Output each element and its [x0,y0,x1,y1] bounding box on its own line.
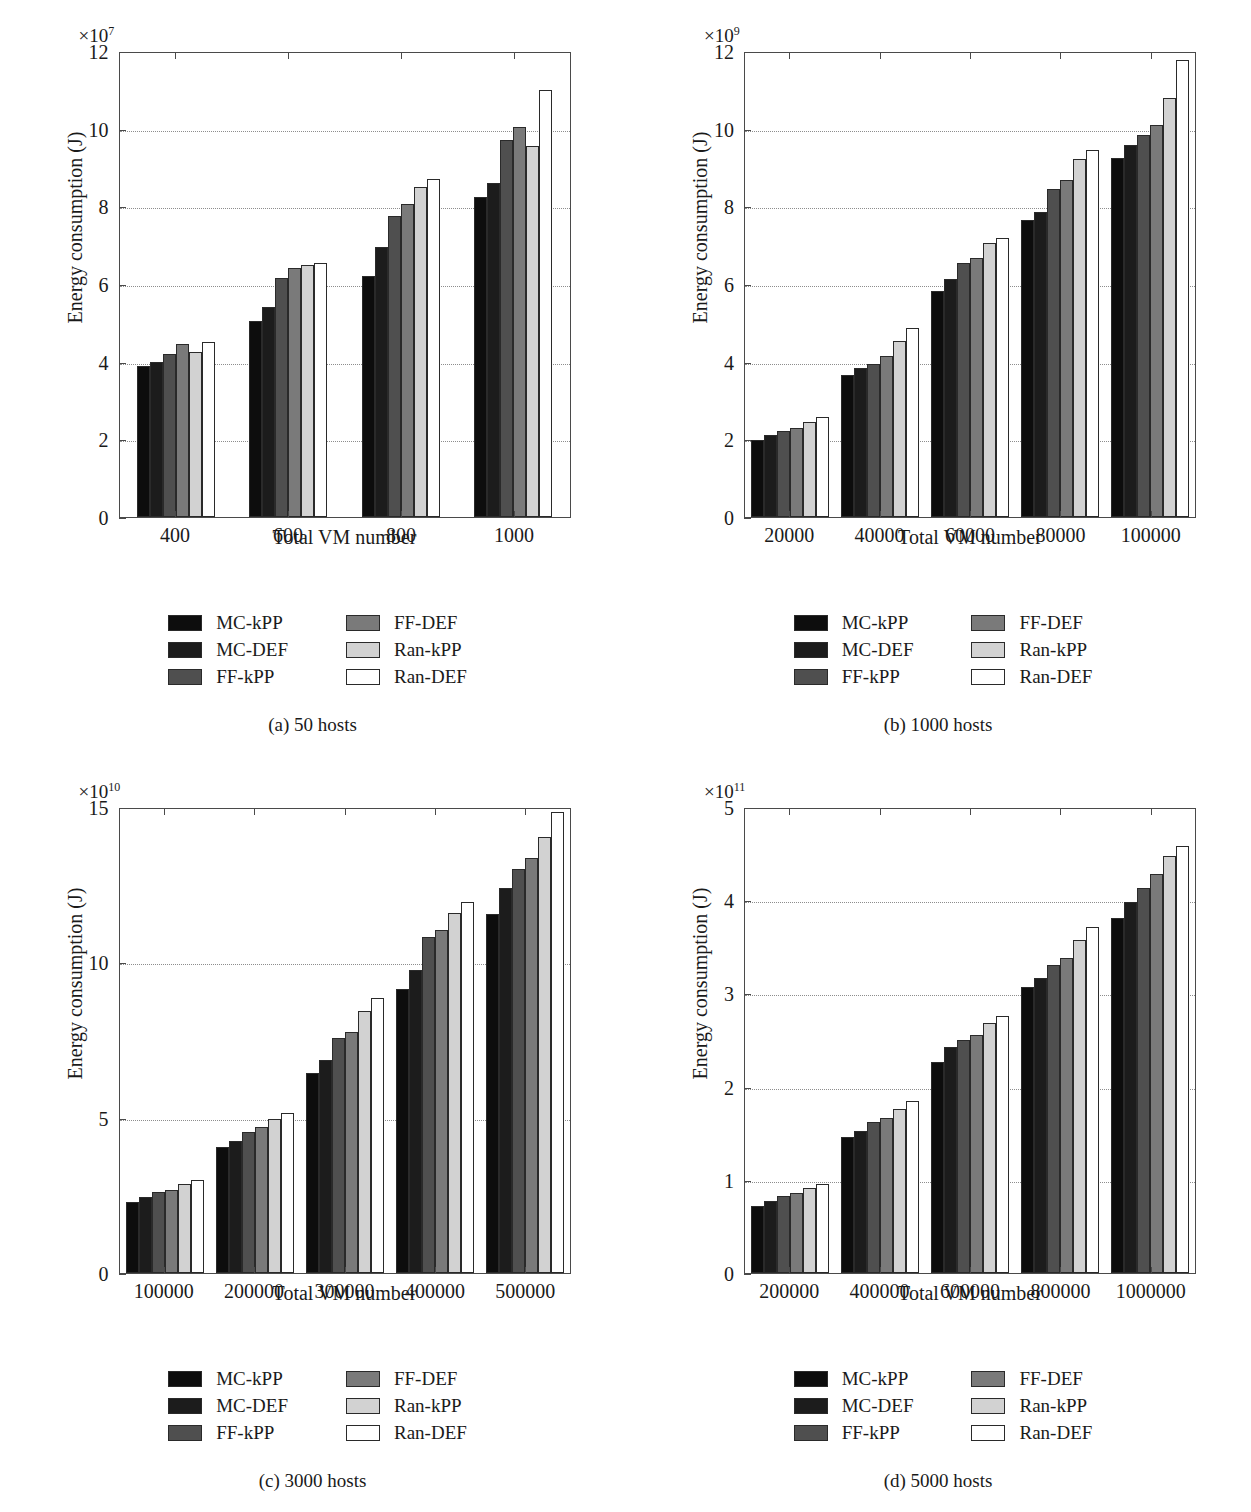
bar [816,417,829,517]
legend-label: MC-kPP [842,612,909,634]
x-tick-mark-top [1151,52,1152,59]
bar [165,1190,178,1273]
legend-swatch [971,642,1005,658]
plot-wrapper: 02468101220000400006000080000100000 [744,52,1196,518]
legend-label: MC-kPP [842,1368,909,1390]
x-tick-mark [880,511,881,518]
x-tick-mark-top [164,808,165,815]
bar [551,812,564,1273]
bar-groups [120,53,570,517]
y-tick-mark [119,285,126,286]
bar [332,1038,345,1273]
y-tick-label: 2 [49,429,109,452]
subfigure-caption-b: (b) 1000 hosts [884,714,993,736]
legend-swatch [346,669,380,685]
plot-wrapper: 051015100000200000300000400000500000 [119,808,571,1274]
x-tick-mark-top [525,808,526,815]
legend-swatch [794,669,828,685]
plot-wrapper: 0246810124006008001000 [119,52,571,518]
legend-label: FF-DEF [1019,1368,1082,1390]
bar [751,440,764,517]
x-tick-mark-top [401,52,402,59]
bar [345,1032,358,1273]
x-tick-mark-top [1060,52,1061,59]
bar [944,279,957,517]
y-tick-mark [119,207,126,208]
legend-item: Ran-kPP [346,1395,467,1417]
bar [435,930,448,1273]
bar [931,291,944,517]
legend-label: MC-DEF [842,639,914,661]
legend: MC-kPPFF-DEFMC-DEFRan-kPPFF-kPPRan-DEF [168,612,467,688]
x-tick-mark-top [970,52,971,59]
y-tick-label: 0 [674,507,734,530]
bar [500,140,513,517]
bar [983,1023,996,1273]
legend-label: Ran-kPP [394,1395,462,1417]
bar [1111,918,1124,1273]
legend-swatch [168,1425,202,1441]
y-tick-mark [744,130,751,131]
bar [1163,98,1176,517]
legend-swatch [168,615,202,631]
y-tick-mark [744,363,751,364]
bar-group [390,809,480,1273]
legend-label: Ran-DEF [1019,666,1092,688]
bar [461,902,474,1273]
x-tick-mark-top [789,52,790,59]
y-tick-label: 5 [49,1107,109,1130]
legend-swatch [794,615,828,631]
legend-label: FF-kPP [842,666,900,688]
x-tick-mark [1151,511,1152,518]
x-tick-mark [514,511,515,518]
bar [777,1196,790,1273]
x-axis-label: Total VM number [119,526,571,549]
legend-label: Ran-DEF [394,1422,467,1444]
bar [1073,159,1086,517]
y-tick-mark [744,207,751,208]
legend-swatch [794,1425,828,1441]
bar [275,278,288,517]
x-tick-mark [970,511,971,518]
y-tick-label: 5 [674,797,734,820]
bar [893,341,906,517]
y-axis-exponent-power: 11 [734,780,746,794]
y-axis-exponent-power: 10 [108,780,120,794]
y-tick-mark [744,1181,751,1182]
bar [906,1101,919,1273]
y-axis-exponent-power: 9 [734,24,740,38]
bar [255,1127,268,1273]
bar [1124,145,1137,517]
bar-group [345,53,458,517]
bar-group [835,809,925,1273]
bar [189,352,202,517]
legend-swatch [346,615,380,631]
x-tick-mark-top [1060,808,1061,815]
bar [1021,987,1034,1273]
bar [867,1122,880,1273]
legend-item: MC-kPP [168,612,288,634]
bar-group [1105,809,1195,1273]
y-tick-mark [119,130,126,131]
legend-item: MC-DEF [794,1395,914,1417]
bar-group [1105,53,1195,517]
legend-item: FF-kPP [794,666,914,688]
bar [1073,940,1086,1273]
legend-label: Ran-kPP [1019,639,1087,661]
bar-group [1015,809,1105,1273]
bar-groups [745,53,1195,517]
bar [388,216,401,517]
y-tick-label: 0 [674,1263,734,1286]
x-axis-label: Total VM number [744,526,1196,549]
bar-groups [745,809,1195,1273]
x-tick-mark [254,1267,255,1274]
bar [526,146,539,517]
bar [816,1184,829,1273]
bar [803,1188,816,1273]
bar [362,276,375,517]
x-tick-mark [175,511,176,518]
x-tick-mark [525,1267,526,1274]
bar [512,869,525,1273]
legend-item: MC-DEF [168,1395,288,1417]
bar [314,263,327,517]
